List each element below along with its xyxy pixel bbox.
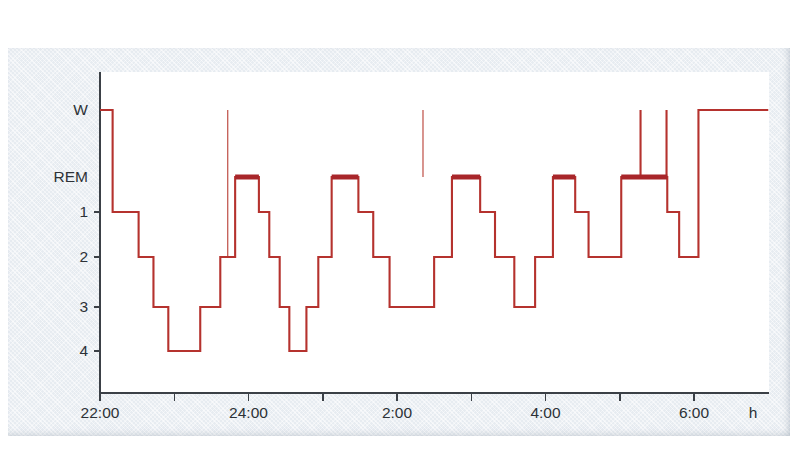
y-axis-ticks [94, 212, 100, 351]
y-axis-label-2: 2 [79, 248, 88, 265]
x-axis-ticks [100, 393, 694, 401]
y-axis-label-rem: REM [54, 168, 88, 185]
y-axis-label-w: W [73, 101, 88, 118]
x-axis-label-4-00: 4:00 [530, 404, 561, 421]
x-axis-tick-labels: 22:0024:002:004:006:00 [81, 404, 710, 421]
x-axis-label-6-00: 6:00 [679, 404, 710, 421]
hypnogram-figure: WREM1234 22:0024:002:004:006:00 h [0, 0, 812, 453]
wake-spike-group [228, 110, 667, 257]
x-axis-label-22-00: 22:00 [81, 404, 120, 421]
hypnogram-chart: WREM1234 22:0024:002:004:006:00 h [0, 0, 812, 453]
y-axis-tick-labels: WREM1234 [54, 101, 89, 359]
sleep-stage-trace [100, 110, 768, 351]
x-axis-label-2-00: 2:00 [382, 404, 413, 421]
y-axis-label-3: 3 [79, 298, 88, 315]
x-axis-unit-label: h [749, 404, 758, 421]
y-axis-label-1: 1 [79, 203, 88, 220]
x-axis-label-24-00: 24:00 [229, 404, 268, 421]
y-axis-label-4: 4 [79, 342, 88, 359]
